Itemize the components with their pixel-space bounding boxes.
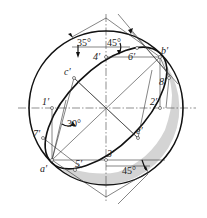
- point-2: [159, 107, 162, 110]
- point-7: [42, 137, 45, 140]
- arrow-35-bottom: [76, 52, 80, 58]
- angle-label-45-top: 45°: [107, 37, 121, 48]
- point-a: [51, 159, 54, 162]
- label-7: 7′: [33, 128, 41, 139]
- point-4: [105, 56, 108, 59]
- angle-label-30: 30°: [67, 118, 81, 129]
- arrow-35-top: [68, 33, 73, 38]
- point-6: [136, 47, 139, 50]
- line-8-vertical: [166, 78, 169, 108]
- point-1: [51, 107, 54, 110]
- point-e: [137, 137, 140, 140]
- point-8: [168, 77, 171, 80]
- label-3: 3′: [106, 148, 115, 159]
- label-6: 6′: [128, 51, 136, 62]
- label-5: 5′: [75, 158, 83, 169]
- line-30deg-ref: [52, 100, 66, 160]
- angle-label-45-bottom: 45°: [122, 165, 136, 176]
- construction-line-aea: [106, 108, 138, 138]
- label-8: 8′: [159, 76, 167, 87]
- label-c: c′: [64, 66, 71, 77]
- label-2: 2′: [150, 96, 158, 107]
- projection-diagram: a′ b′ c′ e′ 1′ 2′ 3′ 4′ 5′ 6′ 7′ 8′ 35° …: [0, 0, 207, 218]
- label-e: e′: [136, 125, 143, 136]
- label-b: b′: [161, 45, 169, 56]
- angle-label-35: 35°: [77, 37, 91, 48]
- label-4: 4′: [93, 51, 101, 62]
- label-1: 1′: [42, 96, 50, 107]
- label-a: a′: [40, 163, 48, 174]
- point-c: [73, 77, 76, 80]
